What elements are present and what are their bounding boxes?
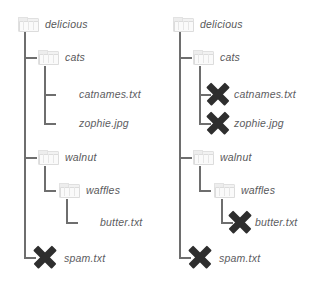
tree-node-label: walnut [65,151,97,163]
tree-node-label: cats [220,51,240,63]
folder-icon [38,50,58,64]
tree-line-cats-to-zophie [44,123,56,125]
folder-icon [193,150,213,164]
tree-node-label: delicious [45,18,88,30]
tree-node-butter[interactable]: butter.txt [100,212,142,232]
tree-line-cats-to-zophie [199,123,211,125]
tree-line-walnut-spine [199,166,201,191]
tree-line-root-to-walnut [24,157,37,159]
tree-node-zophie[interactable]: zophie.jpg [234,113,284,133]
tree-line-walnut-spine [44,166,46,191]
tree-line-cats-to-catnames [199,94,211,96]
tree-node-waffles[interactable]: waffles [214,180,275,200]
tree-node-label: zophie.jpg [79,117,129,129]
tree-node-spam[interactable]: spam.txt [64,248,105,268]
tree-node-label: spam.txt [64,252,105,264]
folder-icon [193,50,213,64]
tree-line-walnut-to-waffles [199,190,211,192]
tree-node-zophie[interactable]: zophie.jpg [79,113,129,133]
tree-line-waffles-spine [66,199,68,223]
tree-line-root-to-cats [179,57,192,59]
tree-node-walnut[interactable]: walnut [38,147,97,167]
tree-line-root-to-cats [24,57,37,59]
tree-line-waffles-spine [221,199,223,223]
tree-line-waffles-to-butter [66,222,78,224]
tree-node-cats[interactable]: cats [193,47,240,67]
tree-node-delicious[interactable]: delicious [18,14,88,34]
tree-node-label: zophie.jpg [234,117,284,129]
diagram-canvas: delicious cats catnames.txt zophie.jpg w… [0,0,311,288]
tree-node-waffles[interactable]: waffles [59,180,120,200]
tree-node-label: delicious [200,18,243,30]
tree-line-waffles-to-butter [221,222,233,224]
tree-node-label: walnut [220,151,252,163]
tree-node-catnames[interactable]: catnames.txt [234,84,296,104]
tree-node-spam[interactable]: spam.txt [219,248,260,268]
folder-icon [18,17,38,31]
tree-node-label: spam.txt [219,252,260,264]
folder-icon [59,183,79,197]
folder-icon [214,183,234,197]
tree-node-label: catnames.txt [79,88,141,100]
folder-icon [173,17,193,31]
tree-node-label: waffles [241,184,275,196]
file-tree-before: delicious cats catnames.txt zophie.jpg w… [0,0,156,288]
tree-line-root-to-spam [179,257,191,259]
tree-line-root-to-walnut [179,157,192,159]
file-tree-after: delicious cats catnames.txt zophie.jpg [155,0,311,288]
tree-node-walnut[interactable]: walnut [193,147,252,167]
tree-node-label: butter.txt [255,216,297,228]
tree-node-label: cats [65,51,85,63]
tree-node-delicious[interactable]: delicious [173,14,243,34]
tree-node-label: butter.txt [100,216,142,228]
tree-line-cats-to-catnames [44,94,56,96]
tree-line-root-spine [24,32,26,258]
tree-node-cats[interactable]: cats [38,47,85,67]
tree-line-root-spine [179,32,181,258]
tree-node-catnames[interactable]: catnames.txt [79,84,141,104]
tree-node-butter[interactable]: butter.txt [255,212,297,232]
tree-line-root-to-spam [24,257,36,259]
tree-node-label: catnames.txt [234,88,296,100]
folder-icon [38,150,58,164]
tree-line-walnut-to-waffles [44,190,56,192]
tree-node-label: waffles [86,184,120,196]
